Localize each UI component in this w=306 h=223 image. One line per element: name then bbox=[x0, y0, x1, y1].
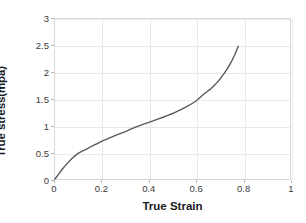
plot-area bbox=[54, 18, 291, 180]
x-tickmark bbox=[54, 180, 55, 183]
x-axis-title: True Strain bbox=[54, 200, 291, 212]
chart-figure: True stress(mpa) True Strain 00.511.522.… bbox=[0, 0, 306, 223]
x-tickmark bbox=[196, 180, 197, 183]
y-tick-label: 1 bbox=[9, 121, 49, 132]
series-line-true-stress-strain bbox=[55, 19, 290, 179]
curve-path bbox=[55, 46, 238, 179]
x-tickmark bbox=[149, 180, 150, 183]
y-tick-label: 2.5 bbox=[9, 40, 49, 51]
y-tick-label: 1.5 bbox=[9, 94, 49, 105]
x-tickmark bbox=[291, 180, 292, 183]
x-tick-label: 0.2 bbox=[81, 183, 121, 194]
gridline-vertical bbox=[292, 19, 293, 179]
x-tickmark bbox=[101, 180, 102, 183]
y-tickmark bbox=[51, 180, 54, 181]
x-tick-label: 0.4 bbox=[129, 183, 169, 194]
x-tick-label: 1 bbox=[271, 183, 306, 194]
x-tickmark bbox=[244, 180, 245, 183]
x-tick-label: 0 bbox=[34, 183, 74, 194]
y-axis-title: True stress(mpa) bbox=[0, 0, 26, 223]
y-tick-label: 2 bbox=[9, 67, 49, 78]
x-tick-label: 0.6 bbox=[176, 183, 216, 194]
x-tick-label: 0.8 bbox=[224, 183, 264, 194]
y-tick-label: 3 bbox=[9, 13, 49, 24]
y-tick-label: 0.5 bbox=[9, 148, 49, 159]
